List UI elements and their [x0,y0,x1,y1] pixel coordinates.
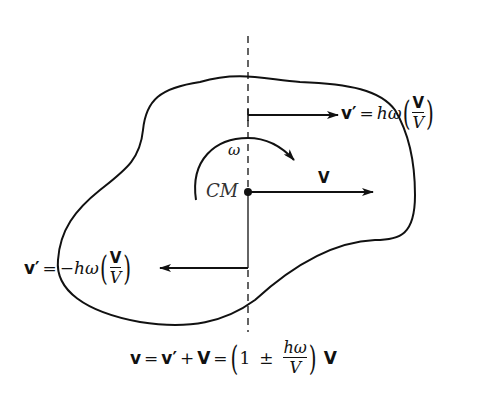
plus-sign: + [180,350,194,367]
bottom-equation: v = v′ + V = ( 1 ± hω V ) V [130,340,337,376]
fraction-denominator: V [110,269,122,286]
fraction: V V [110,250,122,286]
cm-label: CM [206,182,238,200]
fraction-numerator: V [412,95,424,111]
fraction-denominator: V [412,114,424,131]
fraction: V V [412,95,424,131]
equals-sign: = [43,260,57,277]
open-paren: ( [100,251,108,285]
plus-minus-sign: ± [259,350,273,367]
fraction-numerator: V [110,250,122,266]
vprime-symbol: v′ [341,105,357,122]
fraction-denominator: V [289,359,301,376]
close-paren: ) [123,251,131,285]
coefficient: −hω [60,260,99,277]
fraction: hω V [283,340,306,376]
open-paren: ( [231,341,239,375]
close-paren: ) [309,341,317,375]
V-symbol: V [324,350,337,367]
vprime-symbol: v′ [161,350,177,367]
equals-sign: = [144,350,158,367]
fraction-numerator: hω [283,340,306,356]
V-symbol: V [197,350,210,367]
left-equation: v′ = −hω ( V V ) [24,250,131,286]
open-paren: ( [403,96,411,130]
coefficient: hω [377,105,402,122]
vprime-symbol: v′ [24,260,40,277]
one: 1 [239,350,250,367]
close-paren: ) [426,96,434,130]
top-equation: v′ = hω ( V V ) [341,95,434,131]
v-symbol: v [130,350,141,367]
V-label: V [318,171,330,186]
omega-label: ω [228,143,240,158]
equals-sign: = [360,105,374,122]
equals-sign: = [213,350,227,367]
